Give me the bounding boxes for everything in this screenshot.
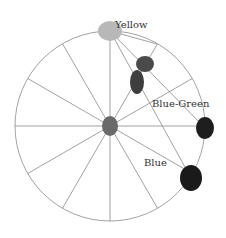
mix-blob-2 — [130, 70, 144, 94]
blue-green-blob — [196, 117, 214, 139]
label-yellow: Yellow — [114, 19, 148, 30]
label-blue-green: Blue-Green — [152, 98, 210, 109]
spoke — [28, 79, 110, 127]
center-blob — [102, 116, 118, 136]
blue-blob — [180, 165, 202, 191]
spoke — [63, 126, 111, 208]
label-blue: Blue — [144, 157, 167, 168]
spoke — [63, 44, 111, 126]
spoke — [28, 126, 110, 174]
mix-blob-1 — [136, 56, 154, 72]
color-wheel-diagram: Yellow Blue-Green Blue — [0, 0, 226, 238]
